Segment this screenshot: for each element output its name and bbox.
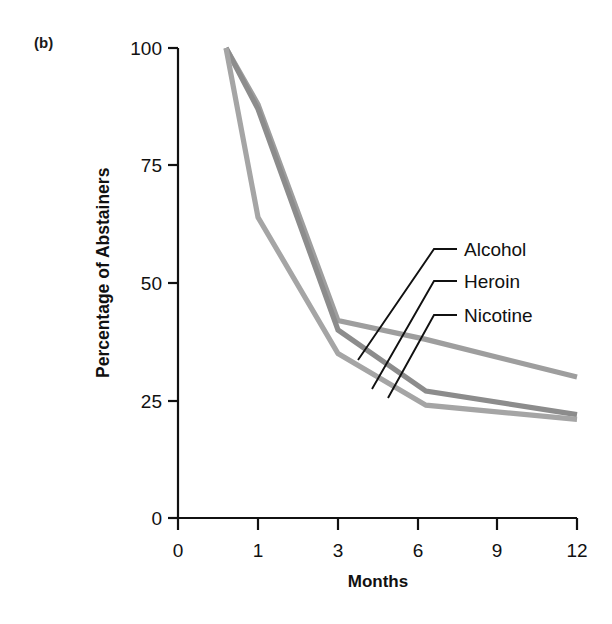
x-tick-label-0: 0: [173, 540, 184, 561]
x-axis-ticks: [178, 518, 577, 530]
y-tick-label-0: 0: [151, 508, 162, 529]
x-tick-label-12: 12: [566, 540, 587, 561]
y-tick-label-100: 100: [130, 38, 162, 59]
series-label-heroin: Heroin: [464, 271, 520, 292]
x-tick-label-1: 1: [253, 540, 264, 561]
series-line-heroin: [226, 48, 577, 415]
leader-line-nicotine: [388, 315, 457, 398]
x-tick-label-6: 6: [413, 540, 424, 561]
x-tick-label-3: 3: [333, 540, 344, 561]
figure-panel-b: (b) Percentage of Abstainers Months 100 …: [0, 0, 612, 624]
data-series-group: [226, 48, 577, 419]
series-label-nicotine: Nicotine: [464, 305, 533, 326]
y-tick-label-25: 25: [141, 391, 162, 412]
series-line-alcohol: [226, 48, 577, 377]
y-tick-label-50: 50: [141, 273, 162, 294]
axis-group: 100 75 50 25 0 0 1 3 6 9 12: [130, 38, 587, 561]
y-tick-label-75: 75: [141, 155, 162, 176]
annotation-labels: Alcohol Heroin Nicotine: [464, 239, 533, 326]
series-label-alcohol: Alcohol: [464, 239, 526, 260]
line-chart-svg: 100 75 50 25 0 0 1 3 6 9 12: [0, 0, 612, 624]
y-axis-ticks: [168, 48, 178, 518]
x-tick-label-9: 9: [492, 540, 503, 561]
